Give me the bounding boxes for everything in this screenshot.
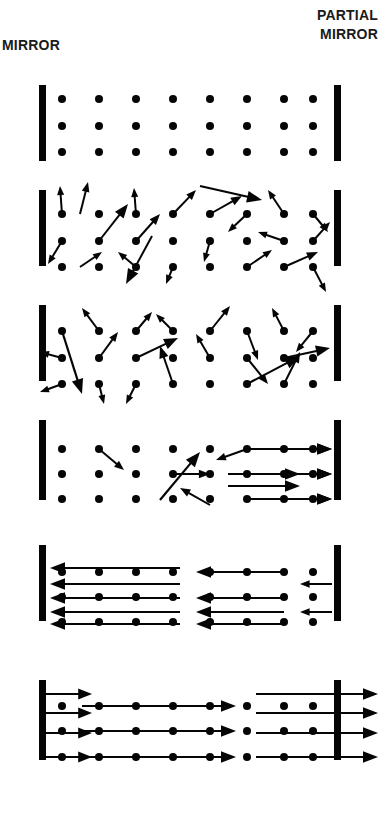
atom-dot-panel-1-3 bbox=[169, 95, 177, 103]
atom-dot-panel-3-0 bbox=[58, 327, 66, 335]
atom-dot-panel-3-13 bbox=[243, 354, 251, 362]
atom-dot-panel-2-16 bbox=[58, 263, 66, 271]
atom-dot-panel-1-9 bbox=[95, 122, 103, 130]
atom-dot-panel-2-14 bbox=[280, 237, 288, 245]
atom-dot-panel-3-2 bbox=[132, 327, 140, 335]
atom-dot-panel-6-12 bbox=[206, 727, 214, 735]
ray-arrowhead-2-0 bbox=[57, 186, 64, 195]
atom-dot-panel-2-20 bbox=[206, 263, 214, 271]
atom-dot-panel-1-17 bbox=[95, 148, 103, 156]
atom-dot-panel-6-9 bbox=[95, 727, 103, 735]
atom-dot-panel-3-12 bbox=[206, 354, 214, 362]
atom-dot-panel-2-18 bbox=[132, 263, 140, 271]
atom-dot-panel-2-13 bbox=[243, 237, 251, 245]
ray-arrowhead-4-12 bbox=[180, 488, 191, 497]
atom-dot-panel-5-10 bbox=[132, 593, 140, 601]
atom-dot-panel-6-8 bbox=[58, 727, 66, 735]
atom-dot-panel-6-19 bbox=[169, 753, 177, 761]
atom-dot-panel-4-8 bbox=[58, 470, 66, 478]
left-mirror-bar-panel-1 bbox=[39, 85, 46, 161]
atom-dot-panel-5-14 bbox=[280, 593, 288, 601]
atom-dot-panel-4-4 bbox=[206, 445, 214, 453]
ray-arrowhead-2-17 bbox=[306, 252, 318, 260]
atom-dot-panel-4-10 bbox=[132, 470, 140, 478]
atom-dot-panel-4-18 bbox=[132, 495, 140, 503]
atom-dot-panel-6-4 bbox=[206, 702, 214, 710]
atom-dot-panel-3-15 bbox=[309, 354, 317, 362]
ray-arrowhead-2-6 bbox=[48, 254, 56, 264]
atom-dot-panel-3-8 bbox=[58, 354, 66, 362]
ray-arrowhead-6-6 bbox=[221, 751, 236, 763]
ray-arrowhead-4-9 bbox=[318, 468, 332, 479]
atom-dot-panel-2-19 bbox=[169, 263, 177, 271]
laser-cavity-scene bbox=[0, 0, 384, 813]
atom-dot-panel-5-7 bbox=[309, 568, 317, 576]
ray-arrowhead-2-11 bbox=[203, 252, 210, 262]
atom-dot-panel-5-15 bbox=[309, 593, 317, 601]
atom-dot-panel-2-0 bbox=[58, 210, 66, 218]
ray-arrowhead-3-6 bbox=[163, 338, 178, 349]
atom-dot-panel-2-8 bbox=[58, 237, 66, 245]
ray-arrowhead-4-8 bbox=[285, 480, 300, 492]
ray-arrowhead-6-1 bbox=[78, 708, 92, 719]
partial-mirror-bar-panel-2 bbox=[334, 190, 341, 266]
atom-dot-panel-2-1 bbox=[95, 210, 103, 218]
atom-dot-panel-4-16 bbox=[58, 495, 66, 503]
ray-arrowhead-2-14 bbox=[268, 190, 276, 199]
atom-dot-panel-6-2 bbox=[132, 702, 140, 710]
atom-dot-panel-3-1 bbox=[95, 327, 103, 335]
atom-dot-panel-4-6 bbox=[280, 445, 288, 453]
atom-dot-panel-1-23 bbox=[309, 148, 317, 156]
atom-dot-panel-4-0 bbox=[58, 445, 66, 453]
atom-dot-panel-5-0 bbox=[58, 568, 66, 576]
ray-arrowhead-6-9 bbox=[363, 727, 378, 739]
atom-dot-panel-2-6 bbox=[280, 210, 288, 218]
laser-diagram-figure: MIRROR PARTIAL MIRROR bbox=[0, 0, 384, 813]
atom-dot-panel-5-19 bbox=[169, 618, 177, 626]
atom-dot-panel-6-20 bbox=[206, 753, 214, 761]
atom-dot-panel-5-13 bbox=[243, 593, 251, 601]
atom-dot-panel-5-9 bbox=[95, 593, 103, 601]
atom-dot-panel-6-3 bbox=[169, 702, 177, 710]
ray-arrowhead-6-7 bbox=[363, 688, 378, 700]
atom-dot-panel-1-4 bbox=[206, 95, 214, 103]
atom-dot-panel-4-20 bbox=[206, 495, 214, 503]
atom-dot-panel-5-2 bbox=[132, 568, 140, 576]
atom-dot-panel-4-21 bbox=[243, 495, 251, 503]
atom-dot-panel-5-21 bbox=[243, 618, 251, 626]
atom-dot-panel-6-14 bbox=[280, 727, 288, 735]
atom-dot-panel-6-16 bbox=[58, 753, 66, 761]
ray-arrowhead-5-7 bbox=[196, 606, 211, 618]
ray-arrowhead-4-3 bbox=[216, 453, 227, 460]
atom-dot-panel-1-21 bbox=[243, 148, 251, 156]
atom-dot-panel-6-5 bbox=[243, 702, 251, 710]
atom-dot-panel-2-4 bbox=[206, 210, 214, 218]
atom-dot-panel-3-17 bbox=[95, 380, 103, 388]
atom-dot-panel-4-15 bbox=[309, 470, 317, 478]
atom-dot-panel-2-23 bbox=[309, 263, 317, 271]
atom-dot-panel-2-15 bbox=[309, 237, 317, 245]
atom-dot-panel-5-20 bbox=[206, 618, 214, 626]
atom-dot-panel-5-6 bbox=[280, 568, 288, 576]
atom-dot-panel-6-21 bbox=[243, 753, 251, 761]
partial-mirror-bar-panel-3 bbox=[334, 305, 341, 381]
atom-dot-panel-1-14 bbox=[280, 122, 288, 130]
atom-dot-panel-1-12 bbox=[206, 122, 214, 130]
left-mirror-bar-panel-2 bbox=[39, 190, 46, 266]
atom-dot-panel-1-11 bbox=[169, 122, 177, 130]
atom-dot-panel-2-9 bbox=[95, 237, 103, 245]
ray-arrowhead-2-20 bbox=[319, 282, 326, 292]
atom-dot-panel-3-14 bbox=[280, 354, 288, 362]
atom-dot-panel-5-11 bbox=[169, 593, 177, 601]
atom-dot-panel-2-12 bbox=[206, 237, 214, 245]
atom-dot-panel-3-6 bbox=[280, 327, 288, 335]
atom-dot-panel-4-14 bbox=[280, 470, 288, 478]
left-mirror-bar-panel-5 bbox=[39, 545, 46, 621]
atom-dot-panel-6-23 bbox=[309, 753, 317, 761]
atom-dot-panel-4-11 bbox=[169, 470, 177, 478]
ray-arrowhead-6-5 bbox=[221, 725, 236, 737]
panel-2 bbox=[39, 182, 341, 292]
partial-mirror-bar-panel-4 bbox=[334, 420, 341, 500]
atom-dot-panel-2-2 bbox=[132, 210, 140, 218]
ray-arrowhead-3-19 bbox=[98, 394, 105, 404]
